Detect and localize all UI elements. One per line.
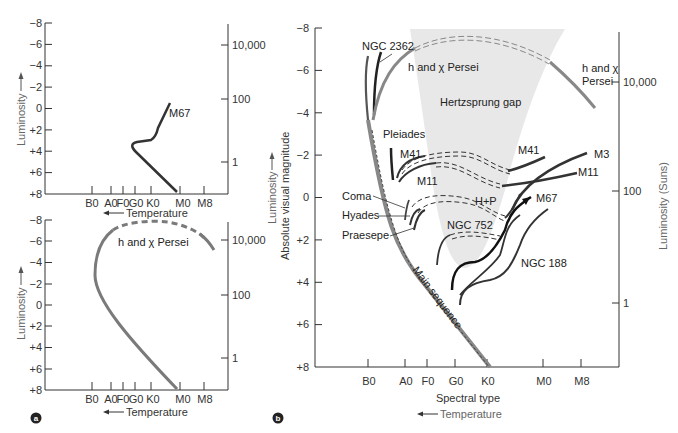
svg-text:a: a — [34, 414, 39, 423]
svg-text:−2: −2 — [296, 149, 309, 161]
svg-text:1: 1 — [623, 297, 629, 309]
arrow-left-icon — [103, 211, 109, 216]
svg-text:−6: −6 — [296, 64, 309, 76]
spectral-type-label: Spectral type — [436, 392, 500, 404]
svg-text:Temperature: Temperature — [126, 406, 188, 418]
panel-a-badge: a — [31, 413, 42, 424]
svg-text:0: 0 — [303, 191, 309, 203]
svg-text:1: 1 — [232, 352, 238, 364]
m11-left-label: M11 — [417, 175, 438, 187]
m41-right-label: M41 — [518, 144, 539, 156]
svg-text:1: 1 — [232, 156, 238, 168]
svg-text:F0: F0 — [422, 375, 435, 387]
svg-text:K0: K0 — [146, 393, 159, 405]
m11-end — [502, 173, 577, 186]
m3-label: M3 — [594, 148, 609, 160]
panel-a-bottom-luminosity-label: Luminosity — [15, 266, 27, 340]
m67-label: M67 — [169, 107, 190, 119]
m67-label-b: M67 — [536, 192, 557, 204]
ngc188-label: NGC 188 — [521, 257, 567, 269]
panel-a-bottom-right-ticks: 10,000 100 1 — [232, 234, 266, 364]
absolute-magnitude-label: Absolute visual magnitude — [279, 132, 291, 260]
luminosity-suns-label: Luminosity (Suns) — [657, 162, 669, 250]
svg-text:−6: −6 — [29, 235, 42, 247]
svg-text:−8: −8 — [296, 22, 309, 34]
svg-text:+8: +8 — [296, 361, 309, 373]
svg-text:−6: −6 — [29, 38, 42, 50]
svg-text:M0: M0 — [536, 375, 551, 387]
svg-text:+8: +8 — [29, 384, 42, 396]
svg-text:+2: +2 — [29, 124, 42, 136]
coma-label: Coma — [342, 190, 372, 202]
svg-text:100: 100 — [232, 289, 250, 301]
panel-b-luminosity-label: Luminosity — [266, 152, 278, 224]
svg-text:+2: +2 — [29, 320, 42, 332]
m41-left-label: M41 — [400, 148, 421, 160]
hr-diagram-figure: −8 −6 −4 −2 0 +2 +4 +6 +8 10,000 100 1 B… — [0, 0, 678, 433]
h-chi-persei-right-label-2: Persei — [582, 75, 613, 87]
h-chi-persei-track-end — [200, 234, 214, 250]
arrow-up-icon — [19, 72, 24, 79]
svg-text:+8: +8 — [29, 188, 42, 200]
svg-text:10,000: 10,000 — [232, 39, 266, 51]
svg-text:M0: M0 — [175, 393, 190, 405]
h-chi-persei-track-solid — [95, 230, 177, 389]
svg-text:0: 0 — [36, 102, 42, 114]
panel-a-bottom-temperature-label: Temperature — [103, 406, 188, 418]
panel-a-top-axes — [45, 23, 228, 194]
svg-text:K0: K0 — [481, 375, 494, 387]
pleiades-track — [391, 148, 393, 180]
ngc2362-leader — [380, 54, 392, 62]
svg-text:−2: −2 — [29, 81, 42, 93]
svg-text:M8: M8 — [197, 197, 212, 209]
svg-text:+2: +2 — [296, 234, 309, 246]
svg-text:Luminosity: Luminosity — [266, 171, 278, 224]
panel-b-temperature-label: Temperature — [417, 408, 502, 420]
hyades-label: Hyades — [342, 209, 380, 221]
svg-text:0: 0 — [36, 299, 42, 311]
h-chi-persei-label-b: h and χ Persei — [408, 61, 479, 73]
svg-text:M8: M8 — [574, 375, 589, 387]
svg-text:Temperature: Temperature — [440, 408, 502, 420]
svg-text:−4: −4 — [29, 59, 42, 71]
m11-right-label: M11 — [578, 166, 599, 178]
svg-text:100: 100 — [623, 185, 641, 197]
main-sequence-label: Main sequence — [410, 264, 464, 331]
hertzsprung-gap-label: Hertzsprung gap — [440, 96, 521, 108]
svg-text:Luminosity: Luminosity — [15, 287, 27, 340]
svg-text:F0: F0 — [117, 393, 130, 405]
arrow-up-icon — [270, 152, 275, 159]
svg-text:10,000: 10,000 — [623, 76, 657, 88]
panel-b-y-ticks: −8 −6 −4 −2 0 +2 +4 +6 +8 — [296, 22, 309, 373]
svg-text:+6: +6 — [29, 363, 42, 375]
svg-text:A0: A0 — [399, 375, 412, 387]
svg-text:+4: +4 — [29, 145, 42, 157]
svg-text:Temperature: Temperature — [126, 207, 188, 219]
coma-leader — [373, 196, 405, 208]
hp-label: H+P — [475, 195, 497, 207]
ngc752-label: NGC 752 — [447, 219, 493, 231]
panel-b-badge: b — [273, 413, 284, 424]
svg-text:B0: B0 — [362, 375, 375, 387]
svg-text:+6: +6 — [29, 166, 42, 178]
svg-text:M8: M8 — [197, 393, 212, 405]
svg-text:G0: G0 — [129, 393, 144, 405]
svg-text:−8: −8 — [29, 17, 42, 29]
panel-b-x-ticks: B0 A0 F0 G0 K0 M0 M8 — [362, 375, 589, 387]
panel-a-top-right-ticks: 10,000 100 1 — [232, 39, 266, 168]
svg-text:B0: B0 — [85, 393, 98, 405]
svg-text:+4: +4 — [296, 276, 309, 288]
svg-text:b: b — [276, 414, 281, 423]
arrow-up-icon — [19, 266, 24, 273]
arrow-left-icon — [103, 410, 109, 415]
svg-text:100: 100 — [232, 93, 250, 105]
praesepe-label: Praesepe — [342, 229, 389, 241]
svg-text:10,000: 10,000 — [232, 234, 266, 246]
svg-text:Luminosity: Luminosity — [15, 93, 27, 146]
svg-text:+6: +6 — [296, 318, 309, 330]
panel-a-bottom-x-ticks: B0 A0 F0 G0 K0 M0 M8 — [85, 393, 212, 405]
svg-text:−2: −2 — [29, 278, 42, 290]
panel-a-top-y-ticks: −8 −6 −4 −2 0 +2 +4 +6 +8 — [29, 17, 42, 200]
ngc2362-track — [366, 56, 368, 120]
m41-end — [508, 157, 545, 171]
